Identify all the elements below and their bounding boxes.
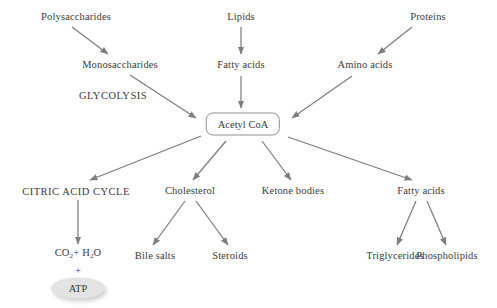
node-triglycerides: Triglycerides xyxy=(366,250,424,262)
arrow-acetyl-coa-to-ketone-bodies xyxy=(262,141,291,180)
arrow-amino-acids-to-acetyl-coa xyxy=(292,76,352,118)
node-phospholipids: Phospholipids xyxy=(416,250,477,262)
arrow-fatty-acids-to-phospholipids xyxy=(427,201,446,245)
arrow-acetyl-coa-to-fatty-acids xyxy=(288,137,412,180)
node-fatty-acids-top: Fatty acids xyxy=(217,59,264,71)
arrow-fatty-acids-to-triglycerides xyxy=(397,201,416,245)
arrow-acetyl-coa-to-citric-acid-cycle xyxy=(90,136,201,180)
node-atp: ATP xyxy=(51,278,105,299)
arrow-acetyl-coa-to-cholesterol xyxy=(193,141,226,180)
node-amino-acids: Amino acids xyxy=(337,59,392,71)
node-acetyl-coa: Acetyl CoA xyxy=(206,113,280,136)
node-citric-acid-cycle: CITRIC ACID CYCLE xyxy=(22,186,130,198)
node-ketone-bodies: Ketone bodies xyxy=(262,185,324,197)
arrow-layer xyxy=(0,0,497,308)
arrow-polysaccharides-to-monosaccharides xyxy=(72,27,108,54)
node-fatty-acids-bottom: Fatty acids xyxy=(397,185,444,197)
node-monosaccharides: Monosaccharides xyxy=(82,59,158,71)
node-plus-sign: + xyxy=(75,265,81,276)
arrow-cholesterol-to-steroids xyxy=(196,201,228,245)
arrow-proteins-to-amino-acids xyxy=(378,27,412,54)
metabolism-diagram: Polysaccharides Monosaccharides GLYCOLYS… xyxy=(0,0,497,308)
node-steroids: Steroids xyxy=(212,250,248,262)
node-polysaccharides: Polysaccharides xyxy=(41,11,111,23)
node-glycolysis: GLYCOLYSIS xyxy=(79,90,147,102)
arrow-cholesterol-to-bile-salts xyxy=(153,201,185,245)
node-proteins: Proteins xyxy=(410,11,446,23)
node-cholesterol: Cholesterol xyxy=(165,185,215,197)
node-co2-water-formula: CO2+ H2O xyxy=(55,247,102,261)
node-lipids: Lipids xyxy=(227,11,255,23)
node-bile-salts: Bile salts xyxy=(135,250,175,262)
